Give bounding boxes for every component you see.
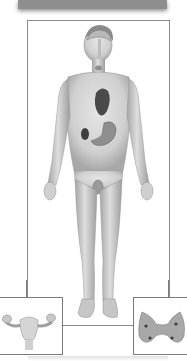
- connector-right: [168, 280, 169, 297]
- thyroid-icon: [95, 66, 102, 71]
- thyroid-gland-icon: [134, 298, 187, 354]
- inset-female-reproductive: [0, 297, 63, 355]
- right-hand: [141, 182, 153, 200]
- head: [84, 25, 113, 62]
- left-foot: [78, 299, 95, 318]
- main-figure-frame: [27, 20, 170, 326]
- bottom-shadow: [28, 356, 168, 361]
- human-body-illustration: [28, 21, 169, 325]
- right-foot: [103, 299, 118, 318]
- inset-thyroid: [133, 297, 187, 355]
- kidney-icon: [81, 128, 89, 140]
- left-leg: [75, 179, 97, 301]
- uterus-icon: [0, 298, 62, 354]
- right-leg: [100, 179, 122, 301]
- connector-left: [26, 280, 27, 297]
- left-hand: [44, 182, 56, 200]
- torso: [66, 72, 131, 171]
- header-bar: [18, 0, 167, 9]
